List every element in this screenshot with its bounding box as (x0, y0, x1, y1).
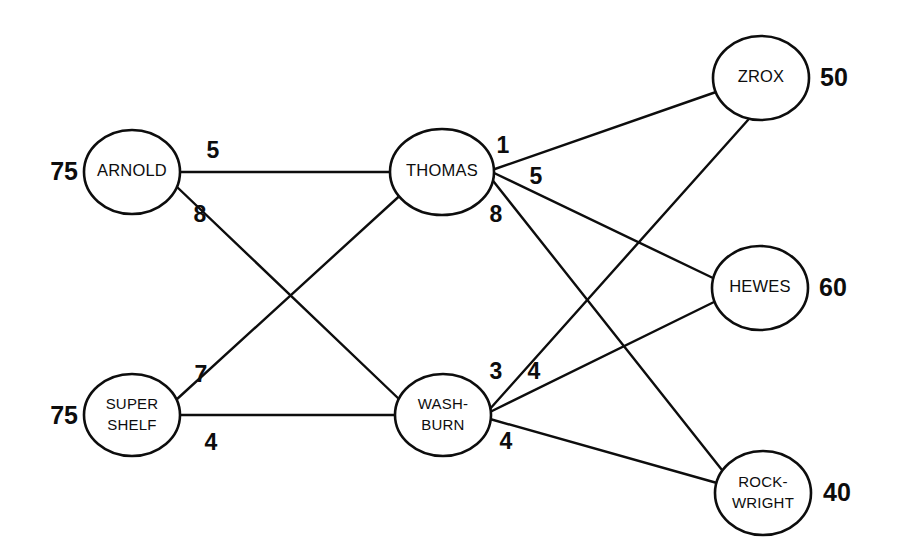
edge-washburn-rockwright (490, 419, 717, 483)
edge-weight-arnold-thomas: 5 (207, 137, 220, 163)
network-diagram: ARNOLDSUPERSHELFTHOMASWASH-BURNZROXHEWES… (0, 0, 897, 550)
edge-supershelf-thomas (176, 190, 406, 400)
edge-thomas-zrox (492, 92, 716, 170)
node-washburn[interactable]: WASH-BURN (395, 374, 491, 456)
network-diagram-canvas: ARNOLDSUPERSHELFTHOMASWASH-BURNZROXHEWES… (0, 0, 897, 550)
edge-weight-washburn-rockwright: 4 (500, 428, 513, 454)
node-label-washburn: BURN (421, 416, 464, 433)
node-label-supershelf: SUPER (106, 395, 159, 412)
edge-weight-supershelf-washburn: 4 (205, 429, 218, 455)
edge-weight-thomas-zrox: 1 (497, 132, 510, 158)
node-label-thomas: THOMAS (406, 161, 478, 179)
edge-weight-washburn-zrox: 3 (490, 358, 503, 384)
edge-weight-washburn-hewes: 4 (528, 358, 541, 384)
edge-thomas-hewes (492, 172, 713, 278)
node-arnold[interactable]: ARNOLD (84, 130, 180, 214)
node-value-rockwright: 40 (823, 478, 851, 506)
node-label-washburn: WASH- (418, 395, 468, 412)
node-value-zrox: 50 (820, 63, 848, 91)
node-supershelf[interactable]: SUPERSHELF (84, 374, 180, 456)
node-label-rockwright: WRIGHT (732, 494, 794, 511)
edge-weight-supershelf-thomas: 7 (195, 361, 208, 387)
edge-weight-thomas-rockwright: 8 (490, 201, 503, 227)
node-hewes[interactable]: HEWES (712, 246, 808, 330)
edge-weight-thomas-hewes: 5 (530, 163, 543, 189)
edge-thomas-rockwright (490, 177, 722, 470)
node-rockwright[interactable]: ROCK-WRIGHT (715, 451, 811, 535)
node-label-rockwright: ROCK- (738, 473, 787, 490)
node-zrox[interactable]: ZROX (713, 36, 809, 120)
edge-weight-arnold-washburn: 8 (194, 201, 207, 227)
node-value-arnold: 75 (50, 157, 78, 185)
nodes-group: ARNOLDSUPERSHELFTHOMASWASH-BURNZROXHEWES… (84, 36, 811, 535)
node-label-zrox: ZROX (738, 67, 785, 85)
node-label-supershelf: SHELF (107, 416, 156, 433)
node-value-hewes: 60 (819, 273, 847, 301)
node-label-arnold: ARNOLD (97, 161, 167, 179)
node-thomas[interactable]: THOMAS (390, 129, 494, 215)
node-value-supershelf: 75 (50, 401, 78, 429)
node-label-hewes: HEWES (729, 277, 791, 295)
